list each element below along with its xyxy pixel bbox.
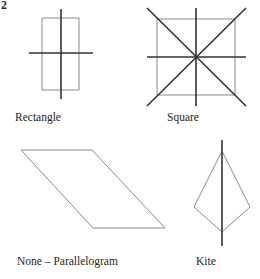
shape-outline-parallelogram [21, 150, 165, 228]
shape-label-parallelogram: None – Parallelogram [17, 255, 118, 268]
shape-label-rectangle: Rectangle [15, 111, 61, 124]
symmetry-line-group [29, 8, 246, 246]
figures-canvas [0, 0, 260, 279]
shape-label-square: Square [167, 111, 199, 124]
worksheet-page: 2 Rectangle Square None – Parallelogram … [0, 0, 260, 279]
shape-label-kite: Kite [196, 255, 216, 268]
shape-outline-group [21, 18, 250, 232]
